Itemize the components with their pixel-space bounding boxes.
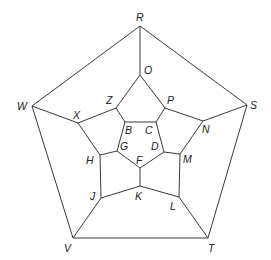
vertex-label-N: N <box>202 123 210 135</box>
edge-S-N <box>203 105 247 121</box>
vertex-label-B: B <box>125 124 132 136</box>
edge-W-V <box>32 106 73 238</box>
vertex-label-H: H <box>86 154 94 166</box>
vertex-label-P: P <box>167 94 174 106</box>
vertex-label-L: L <box>170 200 176 212</box>
vertex-label-X: X <box>72 109 81 121</box>
edge-G-H <box>100 151 117 155</box>
vertex-label-R: R <box>136 11 144 23</box>
dodecahedron-graph: ROWSZPXNBCGDHMFKJLVT <box>0 0 271 260</box>
edge-D-F <box>140 152 164 168</box>
edge-Z-B <box>116 108 125 122</box>
edge-P-N <box>165 108 203 121</box>
edge-M-L <box>179 154 180 197</box>
edge-L-K <box>140 186 179 197</box>
graph-edges <box>32 26 247 238</box>
vertex-label-C: C <box>145 124 153 136</box>
vertex-label-D: D <box>151 140 159 152</box>
edge-R-W <box>32 26 140 106</box>
vertex-label-S: S <box>250 99 257 111</box>
vertex-label-M: M <box>183 153 192 165</box>
edge-T-L <box>179 197 208 238</box>
vertex-label-V: V <box>64 242 72 254</box>
edge-Z-X <box>78 108 116 123</box>
vertex-label-W: W <box>17 100 28 112</box>
edge-S-T <box>208 105 247 238</box>
vertex-label-G: G <box>120 140 128 152</box>
edge-H-J <box>100 155 101 198</box>
edge-D-M <box>164 152 180 154</box>
vertex-label-T: T <box>208 242 216 254</box>
edge-P-C <box>156 108 165 122</box>
vertex-label-O: O <box>144 64 152 76</box>
edge-R-S <box>140 26 247 105</box>
edge-O-P <box>140 75 165 108</box>
vertex-label-K: K <box>135 190 143 202</box>
vertex-label-Z: Z <box>105 94 113 106</box>
vertex-label-F: F <box>136 154 143 166</box>
edge-X-H <box>78 123 100 155</box>
vertex-labels: ROWSZPXNBCGDHMFKJLVT <box>17 11 257 254</box>
edge-N-M <box>180 121 203 154</box>
edge-W-X <box>32 106 78 123</box>
vertex-label-J: J <box>89 190 96 202</box>
edge-O-Z <box>116 75 140 108</box>
edge-V-J <box>73 198 101 238</box>
